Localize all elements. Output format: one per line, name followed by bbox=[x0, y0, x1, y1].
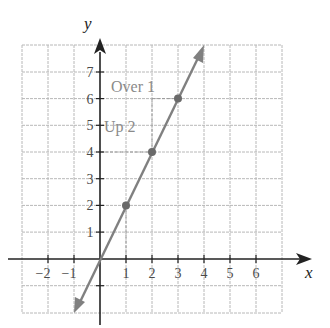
up-annotation: Up 2 bbox=[104, 118, 136, 136]
x-tick-label: 5 bbox=[227, 266, 234, 281]
y-axis-label: y bbox=[82, 14, 92, 33]
point-1-2 bbox=[122, 201, 130, 209]
x-tick-labels: −2 −1 1 2 3 4 5 6 bbox=[36, 266, 260, 281]
x-tick-label: −1 bbox=[62, 266, 77, 281]
line-arrow-up-icon bbox=[193, 45, 204, 63]
x-tick-label: 4 bbox=[201, 266, 208, 281]
point-3-6 bbox=[174, 95, 182, 103]
x-tick-label: −2 bbox=[36, 266, 51, 281]
y-axis-arrow-icon bbox=[94, 38, 106, 54]
y-tick-label: 1 bbox=[87, 225, 94, 240]
y-tick-label: 2 bbox=[87, 198, 94, 213]
y-tick-labels: 1 2 3 4 5 6 7 bbox=[87, 65, 94, 240]
y-tick-label: 5 bbox=[87, 118, 94, 133]
y-tick-label: 7 bbox=[87, 65, 94, 80]
line-arrow-down-icon bbox=[74, 297, 85, 313]
y-tick-label: 3 bbox=[87, 172, 94, 187]
coordinate-plane: −2 −1 1 2 3 4 5 6 1 2 3 4 5 6 7 y x Over… bbox=[0, 0, 330, 328]
y-tick-label: 4 bbox=[87, 145, 94, 160]
x-tick-label: 2 bbox=[149, 266, 156, 281]
x-tick-label: 1 bbox=[123, 266, 130, 281]
x-tick-label: 3 bbox=[175, 266, 182, 281]
x-axis-label: x bbox=[304, 263, 313, 282]
point-2-4 bbox=[148, 148, 156, 156]
over-annotation: Over 1 bbox=[111, 78, 155, 95]
x-tick-label: 6 bbox=[253, 266, 260, 281]
y-tick-label: 6 bbox=[87, 92, 94, 107]
